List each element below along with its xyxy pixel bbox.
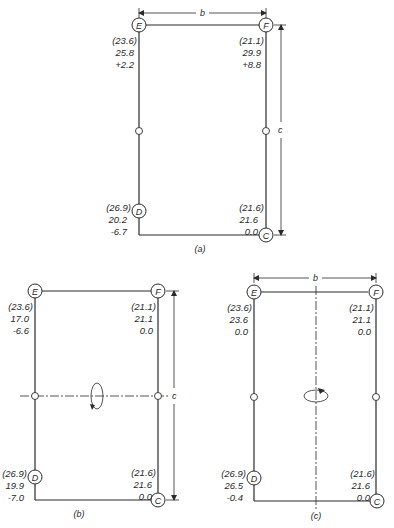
dimension-c-b: c: [166, 291, 179, 500]
caption-a: (a): [195, 244, 206, 254]
hinge-left: [136, 128, 143, 135]
svg-text:D: D: [251, 474, 258, 484]
caption-b: (b): [74, 509, 85, 519]
svg-text:0.0: 0.0: [140, 325, 154, 336]
panel-a: b c E F D: [106, 8, 286, 254]
svg-text:-6.7: -6.7: [111, 226, 128, 237]
svg-text:-6.6: -6.6: [13, 325, 30, 336]
svg-text:0.0: 0.0: [139, 491, 153, 502]
svg-text:(23.6): (23.6): [8, 301, 33, 312]
svg-text:F: F: [373, 288, 379, 298]
node-E: E: [132, 18, 146, 32]
svg-text:F: F: [263, 21, 269, 31]
node-C: C: [151, 493, 165, 507]
values-D: (26.9) 26.5 -0.4: [221, 468, 246, 503]
svg-text:C: C: [374, 497, 381, 507]
svg-text:19.9: 19.9: [6, 480, 25, 491]
node-E: E: [247, 285, 261, 299]
hinge-right: [263, 128, 270, 135]
svg-text:0.0: 0.0: [245, 226, 259, 237]
node-F: F: [151, 284, 165, 298]
node-D: D: [247, 471, 261, 485]
svg-text:0.0: 0.0: [358, 326, 372, 337]
svg-text:21.6: 21.6: [133, 479, 153, 490]
frame-diagram: b c E F D: [0, 0, 394, 528]
dimension-c-a: c: [274, 25, 286, 235]
svg-text:23.6: 23.6: [229, 314, 249, 325]
svg-text:(21.6): (21.6): [239, 202, 264, 213]
svg-text:E: E: [32, 287, 39, 297]
svg-text:-0.4: -0.4: [227, 492, 243, 503]
node-D: D: [132, 204, 146, 218]
svg-text:D: D: [136, 207, 143, 217]
node-C: C: [259, 228, 273, 242]
svg-text:(21.1): (21.1): [239, 35, 264, 46]
hinge-left: [32, 393, 39, 400]
values-E: (23.6) 25.8 +2.2: [112, 35, 137, 70]
values-D: (26.9) 19.9 -7.0: [2, 468, 27, 503]
svg-text:21.1: 21.1: [352, 314, 372, 325]
svg-text:21.1: 21.1: [134, 313, 154, 324]
values-D: (26.9) 20.2 -6.7: [106, 202, 131, 237]
svg-text:20.2: 20.2: [108, 214, 128, 225]
svg-text:b: b: [313, 273, 318, 283]
dimension-b-a: b: [139, 8, 266, 18]
hinge-right: [155, 393, 162, 400]
svg-text:(21.1): (21.1): [131, 301, 156, 312]
panel-b: c E F D C (23.6) 17.0 -6.6 (21.1) 21.1 0…: [2, 284, 179, 519]
svg-text:0.0: 0.0: [357, 492, 371, 503]
values-F: (21.1) 21.1 0.0: [349, 302, 374, 337]
svg-text:F: F: [155, 287, 161, 297]
node-F: F: [369, 285, 383, 299]
panel-c: b E F D C (23.6): [221, 273, 384, 521]
svg-text:17.0: 17.0: [11, 313, 30, 324]
rotation-arrow-icon: [90, 383, 103, 410]
svg-text:(23.6): (23.6): [227, 302, 252, 313]
hinge-right: [373, 394, 380, 401]
svg-text:(21.6): (21.6): [350, 468, 375, 479]
values-F: (21.1) 29.9 +8.8: [239, 35, 264, 70]
svg-text:C: C: [263, 231, 270, 241]
svg-text:(23.6): (23.6): [112, 35, 137, 46]
node-D: D: [28, 470, 42, 484]
svg-text:(26.9): (26.9): [106, 202, 131, 213]
svg-text:21.6: 21.6: [351, 480, 371, 491]
svg-text:(26.9): (26.9): [221, 468, 246, 479]
svg-text:(26.9): (26.9): [2, 468, 27, 479]
values-E: (23.6) 17.0 -6.6: [8, 301, 33, 336]
values-F: (21.1) 21.1 0.0: [131, 301, 156, 336]
svg-text:-7.0: -7.0: [8, 492, 25, 503]
values-E: (23.6) 23.6 0.0: [227, 302, 252, 337]
svg-text:c: c: [172, 391, 177, 401]
svg-text:C: C: [155, 496, 162, 506]
svg-text:29.9: 29.9: [242, 47, 262, 58]
dimension-b-label: b: [200, 8, 205, 18]
svg-text:+8.8: +8.8: [242, 59, 261, 70]
svg-text:25.8: 25.8: [115, 47, 135, 58]
svg-text:+2.2: +2.2: [115, 59, 134, 70]
svg-text:(21.6): (21.6): [131, 467, 156, 478]
svg-text:E: E: [136, 21, 143, 31]
dimension-c-label: c: [278, 125, 283, 135]
node-F: F: [259, 18, 273, 32]
svg-text:26.5: 26.5: [224, 480, 244, 491]
node-E: E: [28, 284, 42, 298]
hinge-left: [251, 394, 258, 401]
svg-text:21.6: 21.6: [239, 214, 259, 225]
svg-text:D: D: [32, 473, 39, 483]
dimension-b-c: b: [254, 273, 376, 283]
svg-text:0.0: 0.0: [235, 326, 249, 337]
svg-text:E: E: [251, 288, 258, 298]
caption-c: (c): [311, 511, 322, 521]
svg-text:(21.1): (21.1): [349, 302, 374, 313]
node-C: C: [370, 494, 384, 508]
